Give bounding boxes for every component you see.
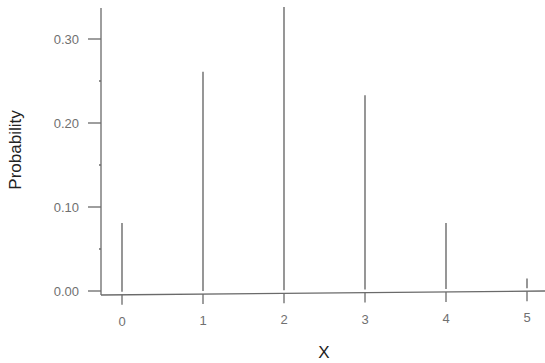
y-axis: 0.000.100.200.30 (54, 8, 101, 299)
probability-spike-chart: 0.000.100.200.30 012345 Probability X (0, 0, 545, 363)
x-tick-label: 1 (199, 313, 206, 328)
x-axis-line (101, 291, 545, 295)
x-tick-label: 3 (361, 312, 368, 327)
y-tick-label: 0.10 (54, 200, 79, 215)
x-tick-label: 0 (118, 314, 125, 329)
y-tick-label: 0.30 (54, 32, 79, 47)
x-axis: 012345 (101, 291, 545, 329)
x-axis-title: X (318, 343, 329, 362)
data-spikes (122, 7, 527, 292)
y-tick-label: 0.20 (54, 116, 79, 131)
y-tick-label: 0.00 (54, 284, 79, 299)
x-tick-label: 2 (280, 312, 287, 327)
x-tick-label: 5 (523, 310, 530, 325)
x-tick-label: 4 (442, 311, 449, 326)
y-axis-title: Probability (6, 110, 25, 190)
